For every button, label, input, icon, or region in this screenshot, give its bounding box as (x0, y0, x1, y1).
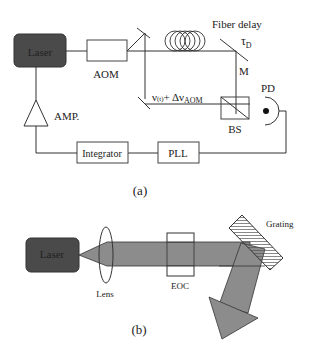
beam-splitter: BS (221, 97, 249, 135)
laser-a-label: Laser (28, 46, 53, 58)
mirror-1 (127, 28, 150, 99)
diagram-canvas: Laser AOM Fiber delay τD (0, 0, 311, 356)
grating-label: Grating (266, 219, 294, 229)
bs-label: BS (228, 123, 241, 135)
wire-pd-pll (199, 111, 286, 153)
mirror-m-label: M (239, 65, 249, 77)
integrator-block: Integrator (77, 142, 128, 163)
caption-a: (a) (133, 183, 147, 198)
laser-a: Laser (14, 34, 66, 67)
amp-label: AMP. (54, 110, 80, 122)
laser-b: Laser (26, 238, 79, 272)
fiber-delay-label: Fiber delay (212, 18, 262, 30)
pll-label: PLL (168, 147, 188, 159)
lens-label: Lens (96, 289, 114, 299)
aom: AOM (87, 40, 127, 80)
pd-label: PD (261, 82, 275, 94)
mirror-2 (138, 97, 150, 109)
tau-label: τD (241, 34, 252, 50)
integrator-label: Integrator (82, 148, 122, 159)
photodetector: PD (261, 82, 279, 125)
fiber-delay-coil (165, 31, 205, 51)
caption-b: (b) (131, 322, 146, 337)
pll-block: PLL (158, 142, 199, 163)
frequency-label: ν(t)+ ΔνAOM (152, 91, 203, 105)
amplifier: AMP. (24, 100, 80, 126)
panel-a: Laser AOM Fiber delay τD (14, 18, 286, 198)
eoc-label: EOC (171, 281, 189, 291)
panel-b: Laser Lens EOC Grating (b) (26, 215, 294, 339)
laser-b-label: Laser (40, 248, 65, 260)
aom-label: AOM (93, 68, 119, 80)
wire-integrator-amp (36, 126, 77, 153)
beam-main (79, 242, 250, 266)
